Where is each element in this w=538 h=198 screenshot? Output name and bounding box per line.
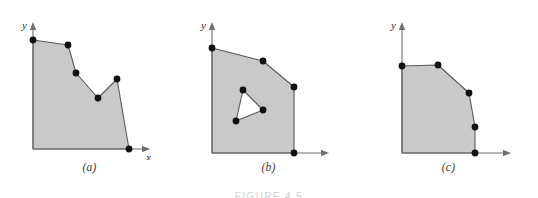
figure-container: y x (a) y x (b) xyxy=(0,0,538,198)
vertex-dot xyxy=(30,37,37,44)
vertex-dot xyxy=(126,146,133,153)
panel-c: y x (c) xyxy=(359,0,538,198)
vertex-dot xyxy=(233,118,240,125)
vertex-dot xyxy=(240,87,247,94)
panel-a-diagram: y x xyxy=(0,0,179,160)
vertex-dot xyxy=(399,63,406,70)
y-axis-label-c: y xyxy=(390,19,396,31)
vertex-dot xyxy=(260,107,267,114)
y-axis-label-b: y xyxy=(200,19,206,31)
vertex-dot xyxy=(472,150,479,157)
polygon-c xyxy=(402,65,475,153)
vertex-dot xyxy=(114,76,121,83)
vertex-dot xyxy=(209,45,216,52)
y-axis-label-a: y xyxy=(21,19,27,31)
polygon-a xyxy=(33,40,129,149)
panel-c-diagram: y x xyxy=(359,0,538,160)
panel-c-caption: (c) xyxy=(359,160,538,174)
y-axis-arrowhead-a xyxy=(30,22,36,30)
panel-b-diagram: y x xyxy=(179,0,358,160)
x-axis-label-a: x xyxy=(145,151,151,160)
panel-b: y x (b) xyxy=(179,0,358,198)
y-axis-arrowhead-c xyxy=(399,22,405,30)
vertex-dot xyxy=(466,90,473,97)
vertex-dot xyxy=(435,62,442,69)
vertex-dot xyxy=(65,42,72,49)
vertex-dot xyxy=(472,124,479,131)
vertex-dot xyxy=(260,58,267,65)
vertex-dot xyxy=(95,95,102,102)
vertex-dot xyxy=(291,84,298,91)
vertex-dot xyxy=(291,150,298,157)
figure-caption: FIGURE 4.5 xyxy=(0,186,538,198)
y-axis-arrowhead-b xyxy=(209,22,215,30)
panel-b-caption: (b) xyxy=(179,160,358,174)
vertex-dot xyxy=(73,70,80,77)
panel-a-caption: (a) xyxy=(0,160,179,174)
panel-a: y x (a) xyxy=(0,0,179,198)
